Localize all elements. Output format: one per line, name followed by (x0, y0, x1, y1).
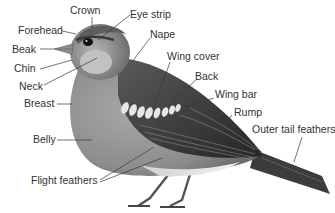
label-eye-strip: Eye strip (130, 8, 171, 20)
label-neck: Neck (19, 80, 44, 92)
label-nape: Nape (150, 28, 175, 40)
eye (83, 38, 93, 46)
label-wing-cover: Wing cover (167, 50, 220, 62)
label-breast: Breast (24, 97, 54, 109)
label-rump: Rump (234, 106, 262, 118)
bird-anatomy-diagram: Crown Eye strip Forehead Nape Beak Chin … (0, 0, 335, 213)
label-outer-tail-feathers: Outer tail feathers (252, 123, 335, 135)
label-belly: Belly (33, 133, 57, 145)
label-flight-feathers: Flight feathers (31, 174, 98, 186)
tail (250, 150, 330, 194)
label-forehead: Forehead (18, 24, 63, 36)
label-crown: Crown (70, 4, 101, 16)
label-chin: Chin (14, 62, 36, 74)
label-beak: Beak (12, 43, 37, 55)
label-wing-bar: Wing bar (215, 88, 258, 100)
label-back: Back (195, 70, 219, 82)
